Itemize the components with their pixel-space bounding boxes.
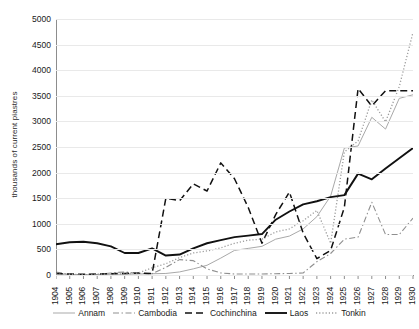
x-axis-tick-label: 1910 <box>132 287 142 305</box>
legend-item-cochinchina[interactable]: Cochinchina <box>185 308 257 318</box>
legend-label: Laos <box>290 308 308 318</box>
x-axis-tick-label: 1929 <box>393 287 403 305</box>
x-axis-tick-label: 1927 <box>366 287 376 305</box>
x-axis-tick-labels: 1904190519061907190819091910191119121913… <box>56 277 414 305</box>
legend-item-tonkin[interactable]: Tonkin <box>316 308 366 318</box>
x-axis-tick-label: 1912 <box>160 287 170 305</box>
legend-label: Cambodia <box>138 308 177 318</box>
gridline <box>56 224 413 225</box>
x-axis-tick-label: 1913 <box>174 287 184 305</box>
x-axis-tick-label: 1925 <box>338 287 348 305</box>
legend-label: Cochinchina <box>210 308 257 318</box>
y-axis-tick-label: 500 <box>0 244 51 254</box>
x-axis-tick-label: 1920 <box>270 287 280 305</box>
y-axis-tick-label: 3000 <box>0 116 51 126</box>
x-axis-tick-label: 1926 <box>352 287 362 305</box>
x-axis-tick-label: 1923 <box>311 287 321 305</box>
gridline <box>56 45 413 46</box>
legend-item-cambodia[interactable]: Cambodia <box>113 308 177 318</box>
gridline <box>56 249 413 250</box>
line-chart: thousands of current piastres 0500100015… <box>0 0 419 329</box>
gridline <box>56 121 413 122</box>
legend-label: Tonkin <box>341 308 366 318</box>
x-axis-tick-label: 1921 <box>283 287 293 305</box>
x-axis-ticks <box>56 276 414 280</box>
series-line-laos <box>56 148 413 256</box>
x-axis-tick-label: 1904 <box>50 287 60 305</box>
y-axis-tick-label: 5000 <box>0 14 51 24</box>
x-axis-tick-label: 1906 <box>77 287 87 305</box>
x-axis-tick-label: 1908 <box>105 287 115 305</box>
y-axis-tick-label: 2500 <box>0 142 51 152</box>
gridline <box>56 147 413 148</box>
gridline <box>56 173 413 174</box>
x-axis-tick-label: 1930 <box>407 287 417 305</box>
gridline <box>56 19 413 20</box>
x-axis-tick-label: 1911 <box>146 288 156 305</box>
chart-legend: AnnamCambodiaCochinchinaLaosTonkin <box>0 308 419 318</box>
x-axis-tick-label: 1905 <box>64 287 74 305</box>
legend-swatch-laos <box>265 309 287 317</box>
legend-label: Annam <box>78 308 105 318</box>
y-axis-tick-label: 4000 <box>0 65 51 75</box>
gridline <box>56 70 413 71</box>
x-axis-tick-label: 1916 <box>215 287 225 305</box>
legend-item-annam[interactable]: Annam <box>53 308 105 318</box>
x-axis-tick-label: 1924 <box>325 287 335 305</box>
series-line-cambodia <box>56 202 413 274</box>
y-axis-tick-label: 0 <box>0 270 51 280</box>
legend-swatch-tonkin <box>316 309 338 317</box>
y-axis-tick-label: 1000 <box>0 219 51 229</box>
gridline <box>56 96 413 97</box>
x-axis-tick-label: 1907 <box>91 287 101 305</box>
gridline <box>56 198 413 199</box>
x-axis-tick-label: 1917 <box>229 287 239 305</box>
y-axis-tick-label: 2000 <box>0 168 51 178</box>
y-axis-tick-label: 3500 <box>0 91 51 101</box>
x-axis-tick-label: 1922 <box>297 287 307 305</box>
y-axis-tick-label: 4500 <box>0 40 51 50</box>
x-axis-tick-label: 1928 <box>380 287 390 305</box>
legend-item-laos[interactable]: Laos <box>265 308 308 318</box>
legend-swatch-cochinchina <box>185 309 207 317</box>
x-axis-tick-label: 1915 <box>201 287 211 305</box>
y-axis-tick-label: 1500 <box>0 193 51 203</box>
x-axis-tick-label: 1918 <box>242 287 252 305</box>
legend-swatch-cambodia <box>113 309 135 317</box>
legend-swatch-annam <box>53 309 75 317</box>
x-axis-tick-label: 1919 <box>256 287 266 305</box>
x-axis-tick-label: 1914 <box>187 287 197 305</box>
plot-area <box>56 19 413 275</box>
x-axis-tick-label: 1909 <box>119 287 129 305</box>
